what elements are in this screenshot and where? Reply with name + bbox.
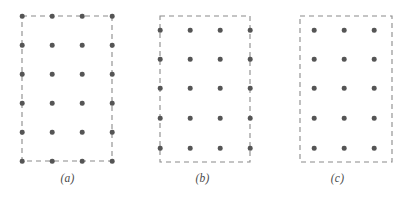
lattice-dot: [80, 14, 85, 19]
panel-a-boundary-rect: [0, 0, 135, 175]
lattice-dot: [188, 86, 193, 91]
lattice-dot: [312, 146, 317, 151]
lattice-dot: [110, 72, 115, 77]
lattice-dot: [20, 159, 25, 164]
lattice-dot: [188, 116, 193, 121]
lattice-dot: [158, 116, 163, 121]
lattice-dot: [158, 57, 163, 62]
lattice-dot: [312, 116, 317, 121]
lattice-dot: [110, 101, 115, 106]
panel-a-canvas: [0, 0, 135, 175]
lattice-dot: [110, 159, 115, 164]
lattice-dot: [342, 86, 347, 91]
figure-root: (a)(b)(c): [0, 0, 405, 204]
lattice-dot: [158, 146, 163, 151]
lattice-dot: [20, 72, 25, 77]
lattice-dot: [312, 57, 317, 62]
lattice-dot: [50, 101, 55, 106]
lattice-dot: [248, 86, 253, 91]
panel-b-caption: (b): [135, 172, 270, 184]
lattice-dot: [188, 57, 193, 62]
lattice-dot: [20, 14, 25, 19]
lattice-dot: [372, 86, 377, 91]
lattice-dot: [20, 101, 25, 106]
panel-b: (b): [135, 0, 270, 204]
lattice-dot: [80, 72, 85, 77]
lattice-dot: [110, 43, 115, 48]
lattice-dot: [372, 116, 377, 121]
lattice-dot: [188, 28, 193, 33]
lattice-dot: [248, 116, 253, 121]
lattice-dot: [50, 130, 55, 135]
lattice-dot: [80, 43, 85, 48]
lattice-dot: [218, 116, 223, 121]
lattice-dot: [50, 14, 55, 19]
lattice-dot: [218, 28, 223, 33]
lattice-dot: [80, 159, 85, 164]
lattice-dot: [342, 28, 347, 33]
lattice-dot: [248, 146, 253, 151]
lattice-dot: [50, 43, 55, 48]
lattice-dot: [80, 101, 85, 106]
panel-b-canvas: [135, 0, 270, 175]
lattice-dot: [50, 159, 55, 164]
lattice-dot: [218, 57, 223, 62]
lattice-dot: [158, 28, 163, 33]
lattice-dot: [312, 86, 317, 91]
lattice-dot: [342, 146, 347, 151]
lattice-dot: [218, 86, 223, 91]
lattice-dot: [20, 130, 25, 135]
panel-c-boundary-rect: [270, 0, 405, 175]
lattice-dot: [372, 28, 377, 33]
lattice-dot: [80, 130, 85, 135]
lattice-dot: [342, 116, 347, 121]
lattice-dot: [342, 57, 347, 62]
lattice-dot: [372, 57, 377, 62]
lattice-dot: [248, 28, 253, 33]
panel-c-canvas: [270, 0, 405, 175]
lattice-dot: [188, 146, 193, 151]
lattice-dot: [312, 28, 317, 33]
panel-c: (c): [270, 0, 405, 204]
panel-a: (a): [0, 0, 135, 204]
lattice-dot: [158, 86, 163, 91]
lattice-dot: [248, 57, 253, 62]
panel-c-caption: (c): [270, 172, 405, 184]
lattice-dot: [372, 146, 377, 151]
lattice-dot: [20, 43, 25, 48]
lattice-dot: [218, 146, 223, 151]
lattice-dot: [110, 130, 115, 135]
lattice-dot: [50, 72, 55, 77]
panel-a-caption: (a): [0, 172, 135, 184]
lattice-dot: [110, 14, 115, 19]
